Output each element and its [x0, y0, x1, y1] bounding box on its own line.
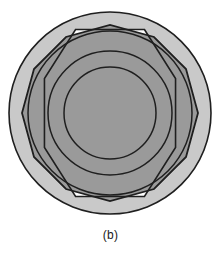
geometric-figure [0, 0, 221, 232]
figure-panel: (b) [0, 0, 221, 255]
figure-caption: (b) [0, 228, 221, 242]
